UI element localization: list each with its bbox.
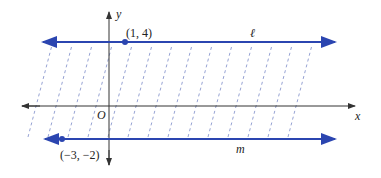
point-neg3-neg2-label: (−3, −2): [60, 149, 100, 161]
y-axis-label: y: [116, 8, 121, 20]
point-1-4-label: (1, 4): [126, 27, 152, 39]
diagram-canvas: [0, 0, 381, 178]
coordinate-diagram: y x O ℓ m (1, 4) (−3, −2): [0, 0, 381, 178]
point-neg3-neg2: [59, 136, 65, 142]
line-m-label: m: [236, 143, 245, 155]
origin-label: O: [97, 109, 106, 121]
x-axis-label: x: [355, 110, 360, 122]
line-l-label: ℓ: [250, 27, 255, 39]
shaded-region-hatching: [28, 45, 312, 137]
